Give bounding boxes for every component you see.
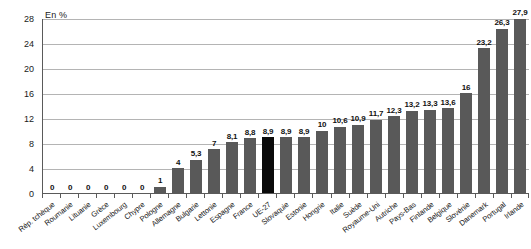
x-tick <box>403 194 421 198</box>
x-tick <box>457 194 475 198</box>
bar-slot[interactable]: 12,3 <box>385 19 403 193</box>
bar-value-label: 0 <box>122 183 126 192</box>
bar-slot[interactable]: 0 <box>61 19 79 193</box>
x-tick <box>421 194 439 198</box>
bar-slot[interactable]: 8,8 <box>241 19 259 193</box>
x-label-slot: Pays-Bas <box>403 199 421 249</box>
y-tick-label: 24 <box>24 39 34 49</box>
bar[interactable] <box>154 187 166 193</box>
bar-slot[interactable]: 8,9 <box>259 19 277 193</box>
bar-value-label: 8,9 <box>281 127 292 136</box>
bar-slot[interactable]: 11,7 <box>367 19 385 193</box>
bar[interactable] <box>334 127 346 193</box>
y-tick-label: 4 <box>29 164 34 174</box>
x-tick <box>150 194 168 198</box>
bar-slot[interactable]: 13,2 <box>403 19 421 193</box>
bar-value-label: 0 <box>140 183 144 192</box>
bar-slot[interactable]: 4 <box>169 19 187 193</box>
bar-slot[interactable]: 23,2 <box>475 19 493 193</box>
bar[interactable] <box>370 120 382 193</box>
bar-slot[interactable]: 26,3 <box>493 19 511 193</box>
bar[interactable] <box>388 116 400 193</box>
bar-series: 000000145,378,18,88,98,98,91010,610,911,… <box>43 19 529 193</box>
bar-slot[interactable]: 0 <box>43 19 61 193</box>
bar-value-label: 8,8 <box>245 128 256 137</box>
bar-slot[interactable]: 13,3 <box>421 19 439 193</box>
bar[interactable] <box>352 125 364 193</box>
plot-area: 000000145,378,18,88,98,98,91010,610,911,… <box>42 19 529 194</box>
bar[interactable] <box>514 19 526 193</box>
bar-value-label: 0 <box>68 183 72 192</box>
x-tick <box>439 194 457 198</box>
bar-value-label: 5,3 <box>191 149 202 158</box>
bar[interactable] <box>460 93 472 193</box>
bar[interactable] <box>226 142 238 193</box>
bar-value-label: 23,2 <box>477 38 492 47</box>
bar[interactable] <box>478 48 490 193</box>
x-tick <box>60 194 78 198</box>
y-tick-label: 16 <box>24 89 34 99</box>
bar[interactable] <box>316 131 328 194</box>
bar[interactable] <box>424 110 436 193</box>
bar-value-label: 0 <box>86 183 90 192</box>
x-tick <box>42 194 60 198</box>
x-label-slot: Allemagne <box>168 199 186 249</box>
bar-slot[interactable]: 8,9 <box>295 19 313 193</box>
bar-slot[interactable]: 16 <box>457 19 475 193</box>
x-tick <box>114 194 132 198</box>
bar[interactable] <box>298 137 310 193</box>
bar-slot[interactable]: 5,3 <box>187 19 205 193</box>
x-label-slot: Belgique <box>439 199 457 249</box>
x-label-slot: Espagne <box>222 199 240 249</box>
bar-value-label: 1 <box>158 176 162 185</box>
x-tick <box>367 194 385 198</box>
x-label-slot: Royaume-Uni <box>367 199 385 249</box>
bar-slot[interactable]: 0 <box>97 19 115 193</box>
bar-value-label: 11,7 <box>369 109 383 118</box>
bar-slot[interactable]: 27,9 <box>511 19 529 193</box>
bar-slot[interactable]: 1 <box>151 19 169 193</box>
bar-slot[interactable]: 7 <box>205 19 223 193</box>
y-tick-label: 8 <box>29 139 34 149</box>
x-label-slot: Danemark <box>475 199 493 249</box>
x-tick <box>96 194 114 198</box>
x-axis-category-labels: Rép. tchèqueRoumanieLituanieGrèceLuxembo… <box>42 199 529 249</box>
bar-value-label: 27,9 <box>513 8 528 17</box>
x-axis-ticks <box>42 194 529 198</box>
bar[interactable] <box>442 108 454 193</box>
bar-slot[interactable]: 0 <box>133 19 151 193</box>
bar-slot[interactable]: 8,1 <box>223 19 241 193</box>
bar-value-label: 8,1 <box>227 132 238 141</box>
bar[interactable] <box>262 137 274 193</box>
y-tick-label: 12 <box>24 114 34 124</box>
bar[interactable] <box>172 168 184 193</box>
bar-value-label: 10 <box>318 120 327 129</box>
x-tick <box>222 194 240 198</box>
bar[interactable] <box>190 160 202 193</box>
x-tick <box>204 194 222 198</box>
bar[interactable] <box>496 29 508 193</box>
bar-slot[interactable]: 10,9 <box>349 19 367 193</box>
x-tick <box>78 194 96 198</box>
bar-slot[interactable]: 13,6 <box>439 19 457 193</box>
x-label-slot: France <box>240 199 258 249</box>
bar[interactable] <box>406 111 418 194</box>
x-tick <box>168 194 186 198</box>
bar[interactable] <box>280 137 292 193</box>
bar[interactable] <box>208 149 220 193</box>
bar-value-label: 0 <box>104 183 108 192</box>
x-tick <box>475 194 493 198</box>
bar-slot[interactable]: 0 <box>115 19 133 193</box>
x-label-slot: Bulgarie <box>186 199 204 249</box>
bar-value-label: 26,3 <box>495 18 510 27</box>
bar-slot[interactable]: 10,6 <box>331 19 349 193</box>
bar-slot[interactable]: 0 <box>79 19 97 193</box>
bar-value-label: 0 <box>50 183 54 192</box>
x-tick <box>349 194 367 198</box>
bar-slot[interactable]: 8,9 <box>277 19 295 193</box>
bar-value-label: 8,9 <box>299 127 310 136</box>
bar-slot[interactable]: 10 <box>313 19 331 193</box>
bar[interactable] <box>244 138 256 193</box>
bar-value-label: 10,9 <box>351 114 366 123</box>
x-label-slot: Slovaquie <box>276 199 294 249</box>
